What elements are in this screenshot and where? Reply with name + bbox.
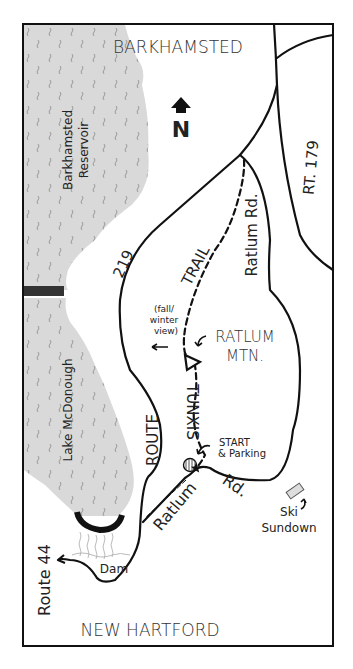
lake-mcdonough-label: Lake McDonough <box>61 358 75 461</box>
ski-pointer-arrow-icon <box>301 499 306 509</box>
rt-179-label: RT. 179 <box>300 139 323 195</box>
dam-label: Dam <box>100 562 128 576</box>
ratlum-mtn-label-2: MTN. <box>226 347 264 365</box>
start-label: START <box>219 437 251 448</box>
view-label-1: (fall/ <box>154 304 175 314</box>
sundown-label: Sundown <box>261 521 316 535</box>
town-new-hartford: NEW HARTFORD <box>80 620 219 640</box>
route-44-label: Route 44 <box>35 544 54 616</box>
trail-map: N BARKHAMSTED NEW HARTFORD Barkhamsted R… <box>0 0 353 669</box>
ratlum-rd-north-label: Ratlum Rd. <box>243 194 261 277</box>
view-label-3: view) <box>154 326 178 336</box>
trail-label-trail: TRAIL <box>177 242 213 289</box>
route-219-number-label: 219 <box>109 247 137 281</box>
reservoir-label-line1: Barkhamsted <box>61 110 75 190</box>
route-219-word-label: ROUTE <box>144 414 162 466</box>
causeway <box>24 286 64 296</box>
lake-mcdonough <box>24 298 134 516</box>
ski-label: Ski <box>280 505 298 519</box>
parking-label: & Parking <box>218 448 266 459</box>
reservoir-label-line2: Reservoir <box>77 122 91 179</box>
route-179-branch <box>277 35 333 58</box>
north-label: N <box>172 117 190 142</box>
town-barkhamsted: BARKHAMSTED <box>113 37 243 57</box>
trail-label-tunxis: TUNXIS <box>183 383 201 440</box>
summit-triangle-icon <box>185 355 200 370</box>
ratlum-mtn-label-1: RATLUM <box>215 328 275 346</box>
north-arrow-icon <box>171 97 191 113</box>
ski-sundown-building <box>286 483 304 499</box>
spillway-waves <box>72 532 130 559</box>
summit-pointer-arrow-icon <box>195 336 206 346</box>
view-arrow-icon <box>152 344 168 350</box>
view-label-2: winter <box>150 315 179 325</box>
